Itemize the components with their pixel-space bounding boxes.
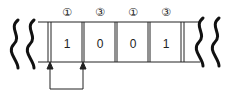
- tape-diagram: ① ③ ① ③ 1 0 0 1: [0, 0, 227, 96]
- cell-value: 0: [97, 37, 104, 51]
- arrow-up-icon: [47, 62, 53, 69]
- cell-label: ①: [128, 6, 138, 19]
- arrow-up-icon: [80, 62, 86, 69]
- cell-label: ①: [62, 6, 72, 19]
- break-squiggle-left: [11, 20, 34, 68]
- cell-value: 1: [163, 37, 170, 51]
- cell-value: 0: [130, 37, 137, 51]
- break-squiggle-right: [196, 18, 219, 66]
- swap-arrow-bracket: [47, 62, 86, 89]
- cell-label: ③: [161, 6, 171, 19]
- tape: [38, 22, 200, 62]
- cell-value: 1: [64, 37, 71, 51]
- cell-label: ③: [95, 6, 105, 19]
